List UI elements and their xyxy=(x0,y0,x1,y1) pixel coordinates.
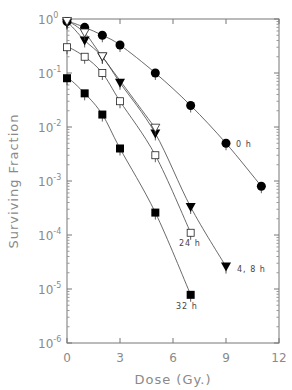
marker-filled-square xyxy=(151,209,159,217)
y-tick-label: 10-5 xyxy=(38,281,61,297)
marker-filled-circle xyxy=(257,182,266,191)
curve-label-32h: 32 h xyxy=(176,302,198,311)
marker-open-square xyxy=(64,44,71,51)
survival-chart: 03691210010-110-210-310-410-510-6 Dose (… xyxy=(0,0,292,390)
fit-curve-24-h xyxy=(67,47,191,233)
y-tick-label: 10-6 xyxy=(38,335,61,351)
marker-open-square xyxy=(81,53,88,60)
marker-filled-triangle-down xyxy=(186,203,196,212)
y-tick-label: 100 xyxy=(38,11,58,27)
x-tick-label: 9 xyxy=(222,351,230,365)
x-tick-label: 3 xyxy=(116,351,124,365)
fit-curves xyxy=(67,21,261,294)
marker-filled-square xyxy=(63,74,71,82)
marker-filled-circle xyxy=(116,41,125,50)
y-tick-label: 10-3 xyxy=(38,173,61,189)
y-tick-label: 10-1 xyxy=(38,65,61,81)
fit-curve-0-h xyxy=(67,21,261,186)
y-tick-label: 10-4 xyxy=(38,227,61,243)
marker-open-square xyxy=(99,70,106,77)
fit-curve-4-h xyxy=(67,23,226,267)
fit-curve-32-h xyxy=(67,78,191,295)
marker-filled-circle xyxy=(151,69,160,78)
curve-label-4-8h: 4, 8 h xyxy=(237,265,266,274)
x-tick-label: 12 xyxy=(271,351,286,365)
marker-filled-circle xyxy=(222,139,231,148)
marker-open-triangle-down xyxy=(98,53,107,61)
plot-frame xyxy=(67,19,279,343)
marker-filled-square xyxy=(81,89,89,97)
marker-filled-circle xyxy=(98,31,107,40)
marker-filled-square xyxy=(116,144,124,152)
marker-filled-square xyxy=(98,111,106,119)
x-tick-label: 0 xyxy=(63,351,71,365)
marker-open-square xyxy=(152,152,159,159)
curve-label-24h: 24 h xyxy=(179,239,201,248)
curve-label-0h: 0 h xyxy=(236,140,252,149)
marker-open-triangle-down xyxy=(80,29,89,37)
y-tick-label: 10-2 xyxy=(38,119,61,135)
x-axis-title: Dose (Gy.) xyxy=(134,372,211,387)
marker-filled-triangle-down xyxy=(115,79,125,88)
marker-open-square xyxy=(187,229,194,236)
y-axis-title: Surviving Fraction xyxy=(6,114,21,249)
data-points xyxy=(62,17,266,302)
marker-open-square xyxy=(117,98,124,105)
plot-axes xyxy=(67,19,279,343)
x-tick-label: 6 xyxy=(169,351,177,365)
marker-filled-square xyxy=(187,291,195,299)
marker-filled-triangle-down xyxy=(221,263,231,272)
tick-labels: 03691210010-110-210-310-410-510-6 xyxy=(38,11,287,365)
marker-filled-circle xyxy=(186,101,195,110)
